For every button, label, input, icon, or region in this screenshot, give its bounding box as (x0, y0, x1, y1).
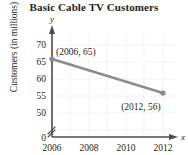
x-tick-label-2012: 2012 (154, 143, 173, 153)
annotation-first-point: (2006, 65) (56, 47, 96, 58)
y-tick-label-55: 55 (37, 91, 47, 101)
y-axis (49, 25, 55, 137)
data-line (52, 59, 163, 93)
x-tick-label-2006: 2006 (43, 143, 62, 153)
data-point-2012 (160, 90, 165, 95)
x-axis (52, 134, 178, 140)
x-axis-letter: x (180, 132, 185, 142)
y-tick-label-60: 60 (37, 74, 47, 84)
y-tick-label-50: 50 (37, 108, 47, 118)
annotation-second-point: (2012, 56) (121, 102, 161, 113)
x-tick-label-2010: 2010 (117, 143, 136, 153)
y-axis-letter: y (49, 14, 54, 24)
x-tick-label-2008: 2008 (80, 143, 99, 153)
y-tick-label-65: 65 (37, 57, 47, 67)
y-tick-label-0: 0 (41, 133, 46, 143)
y-tick-label-70: 70 (37, 40, 47, 50)
horizontal-gridlines (52, 45, 176, 130)
chart-container: Basic Cable TV Customers Customers (in m… (0, 0, 188, 155)
data-point-2006 (49, 56, 54, 61)
plot-area: 70 65 60 55 50 0 2006 2008 2010 2012 y x… (0, 0, 188, 155)
